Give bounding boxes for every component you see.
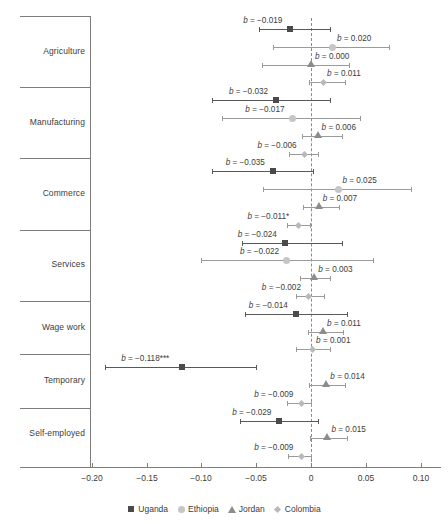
point-marker-square — [282, 240, 288, 246]
x-axis-tick — [92, 463, 93, 467]
confidence-interval-line — [262, 65, 350, 66]
estimate-value-label: b = −0.019 — [243, 16, 282, 25]
confidence-interval-cap — [302, 134, 303, 139]
point-marker-triangle — [307, 60, 315, 67]
confidence-interval-cap — [240, 419, 241, 424]
confidence-interval-cap — [262, 63, 263, 68]
confidence-interval-cap — [105, 365, 106, 370]
confidence-interval-cap — [259, 27, 260, 32]
category-label-agriculture: Agriculture — [0, 46, 85, 56]
point-marker-triangle — [322, 380, 330, 387]
confidence-interval-cap — [288, 454, 289, 459]
confidence-interval-cap — [311, 454, 312, 459]
point-marker-square — [270, 168, 276, 174]
estimate-value-label: b = 0.000 — [315, 52, 349, 61]
confidence-interval-cap — [287, 401, 288, 406]
x-axis-tick-label: −0.15 — [122, 473, 172, 483]
estimate-value-label: b = 0.014 — [330, 372, 364, 381]
category-label-services: Services — [0, 259, 85, 269]
category-separator — [20, 408, 90, 409]
point-marker-triangle — [314, 131, 322, 138]
point-marker-circle — [329, 44, 336, 51]
confidence-interval-line — [302, 136, 341, 137]
confidence-interval-cap — [256, 365, 257, 370]
point-marker-triangle — [319, 327, 327, 334]
confidence-interval-cap — [263, 187, 264, 192]
x-axis-line — [20, 467, 441, 468]
legend-item-ethiopia: Ethiopia — [177, 504, 219, 514]
estimate-value-label: b = −0.014 — [249, 301, 288, 310]
estimate-value-label: b = −0.006 — [257, 141, 296, 150]
confidence-interval-cap — [303, 205, 304, 210]
confidence-interval-cap — [287, 223, 288, 228]
x-axis-tick-label: −0.10 — [176, 473, 226, 483]
point-marker-square — [287, 26, 293, 32]
confidence-interval-line — [212, 171, 313, 172]
category-label-self-employed: Self-employed — [0, 428, 85, 438]
x-axis-tick — [311, 463, 312, 467]
estimate-value-label: b = −0.017 — [245, 105, 284, 114]
legend-marker-diamond — [274, 505, 282, 513]
confidence-interval-cap — [289, 152, 290, 157]
confidence-interval-cap — [330, 347, 331, 352]
estimate-value-label: b = −0.009 — [254, 390, 293, 399]
confidence-interval-cap — [411, 187, 412, 192]
confidence-interval-cap — [345, 80, 346, 85]
estimate-value-label: b = 0.001 — [316, 336, 350, 345]
confidence-interval-cap — [296, 294, 297, 299]
x-axis-tick-label: −0.05 — [231, 473, 281, 483]
chart-legend: UgandaEthiopiaJordanColombia — [0, 504, 448, 514]
confidence-interval-cap — [242, 241, 243, 246]
confidence-interval-cap — [347, 312, 348, 317]
estimate-value-label: b = 0.011 — [327, 319, 361, 328]
confidence-interval-cap — [310, 223, 311, 228]
estimate-value-label: b = −0.029 — [232, 408, 271, 417]
point-marker-diamond — [298, 399, 305, 406]
confidence-interval-cap — [345, 383, 346, 388]
x-axis-tick — [201, 463, 202, 467]
confidence-interval-cap — [273, 45, 274, 50]
point-marker-circle — [335, 186, 342, 193]
estimate-value-label: b = 0.025 — [342, 176, 376, 185]
category-axis-line — [90, 16, 91, 467]
confidence-interval-cap — [324, 294, 325, 299]
confidence-interval-cap — [342, 134, 343, 139]
category-separator — [20, 16, 90, 17]
confidence-interval-cap — [389, 45, 390, 50]
confidence-interval-cap — [347, 436, 348, 441]
legend-label: Colombia — [285, 504, 321, 514]
category-separator — [20, 230, 90, 231]
estimate-value-label: b = −0.118*** — [121, 354, 169, 363]
confidence-interval-cap — [318, 419, 319, 424]
confidence-interval-cap — [349, 63, 350, 68]
point-marker-diamond — [320, 78, 327, 85]
x-axis-tick — [256, 463, 257, 467]
point-marker-diamond — [301, 150, 308, 157]
legend-marker-triangle — [228, 505, 236, 513]
confidence-interval-cap — [310, 436, 311, 441]
confidence-interval-cap — [300, 276, 301, 281]
category-label-temporary: Temporary — [0, 375, 85, 385]
point-marker-circle — [283, 257, 290, 264]
point-marker-triangle — [315, 202, 323, 209]
estimate-value-label: b = −0.002 — [262, 283, 301, 292]
estimate-value-label: b = −0.011* — [247, 212, 289, 221]
confidence-interval-cap — [309, 80, 310, 85]
legend-marker-circle — [177, 505, 185, 513]
confidence-interval-cap — [330, 98, 331, 103]
x-axis-tick — [366, 463, 367, 467]
estimate-value-label: b = −0.022 — [240, 247, 279, 256]
confidence-interval-cap — [201, 258, 202, 263]
confidence-interval-cap — [308, 330, 309, 335]
confidence-interval-cap — [373, 258, 374, 263]
confidence-interval-line — [242, 243, 342, 244]
confidence-interval-cap — [311, 401, 312, 406]
point-marker-triangle — [323, 433, 331, 440]
confidence-interval-cap — [330, 27, 331, 32]
legend-item-jordan: Jordan — [228, 504, 265, 514]
category-label-wage-work: Wage work — [0, 322, 85, 332]
x-axis-tick-label: 0.05 — [341, 473, 391, 483]
confidence-interval-cap — [212, 98, 213, 103]
point-marker-circle — [289, 115, 296, 122]
legend-marker-square — [127, 505, 135, 513]
